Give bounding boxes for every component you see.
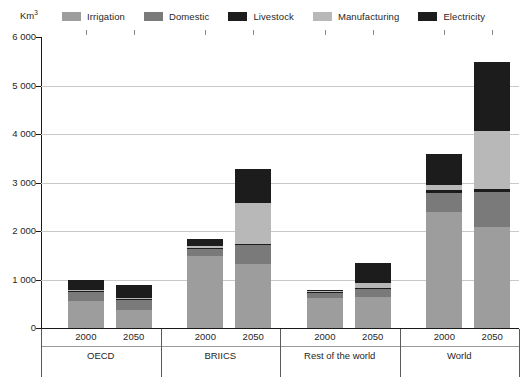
bar-segment-irrigation bbox=[68, 301, 104, 328]
bar-segment-manufacturing bbox=[307, 291, 343, 292]
legend-swatch-icon bbox=[313, 12, 332, 21]
bar-segment-livestock bbox=[355, 288, 391, 289]
bar-segment-electricity bbox=[307, 290, 343, 291]
bar-segment-irrigation bbox=[307, 298, 343, 328]
legend-item-irrigation: Irrigation bbox=[62, 11, 125, 22]
y-tick-mark bbox=[36, 231, 41, 232]
bar-segment-livestock bbox=[235, 244, 271, 245]
y-tick-label: 2 000 bbox=[0, 225, 36, 236]
x-year-label: 2050 bbox=[228, 331, 278, 342]
x-year-label: 2050 bbox=[467, 331, 517, 342]
bar-segment-manufacturing bbox=[235, 203, 271, 244]
bar-segment-irrigation bbox=[187, 256, 223, 328]
bar-segment-domestic bbox=[187, 249, 223, 255]
bar-segment-livestock bbox=[307, 292, 343, 293]
y-tick-mark bbox=[36, 86, 41, 87]
bar-world-2000 bbox=[426, 154, 462, 328]
x-year-label: 2000 bbox=[419, 331, 469, 342]
bar-oecd-2000 bbox=[68, 280, 104, 328]
gridline-4000 bbox=[41, 134, 519, 135]
x-year-label: 2050 bbox=[348, 331, 398, 342]
legend-item-livestock: Livestock bbox=[228, 11, 294, 22]
y-tick-mark bbox=[36, 134, 41, 135]
bar-segment-electricity bbox=[116, 285, 152, 298]
top-tick-mark bbox=[86, 30, 87, 35]
top-tick-mark bbox=[492, 30, 493, 35]
legend-item-electricity: Electricity bbox=[418, 11, 485, 22]
bar-segment-manufacturing bbox=[355, 283, 391, 288]
x-group-label: OECD bbox=[41, 350, 161, 361]
bar-segment-electricity bbox=[474, 62, 510, 131]
bar-briics-2000 bbox=[187, 239, 223, 328]
chart-legend: IrrigationDomesticLivestockManufacturing… bbox=[62, 9, 504, 23]
bar-segment-livestock bbox=[116, 299, 152, 300]
bar-segment-irrigation bbox=[235, 264, 271, 328]
x-year-label: 2050 bbox=[109, 331, 159, 342]
top-tick-mark bbox=[253, 30, 254, 35]
legend-label: Manufacturing bbox=[338, 11, 400, 22]
bar-segment-livestock bbox=[474, 189, 510, 192]
bar-segment-irrigation bbox=[116, 310, 152, 328]
legend-swatch-icon bbox=[144, 12, 163, 21]
bar-segment-livestock bbox=[68, 291, 104, 292]
bar-segment-domestic bbox=[307, 293, 343, 298]
x-year-label: 2000 bbox=[300, 331, 350, 342]
bar-rest-of-the-world-2000 bbox=[307, 290, 343, 328]
bar-segment-manufacturing bbox=[68, 290, 104, 291]
bar-segment-domestic bbox=[355, 289, 391, 297]
top-tick-mark bbox=[134, 30, 135, 35]
y-axis-unit-label: Km3 bbox=[20, 9, 38, 21]
y-tick-label: 3 000 bbox=[0, 177, 36, 188]
top-tick-mark bbox=[373, 30, 374, 35]
x-year-label: 2000 bbox=[180, 331, 230, 342]
bar-segment-irrigation bbox=[426, 212, 462, 328]
water-demand-stacked-bar-chart: Km3 IrrigationDomesticLivestockManufactu… bbox=[0, 0, 525, 379]
legend-label: Livestock bbox=[253, 11, 294, 22]
bar-segment-irrigation bbox=[474, 227, 510, 328]
legend-swatch-icon bbox=[62, 12, 81, 21]
gridline-5000 bbox=[41, 86, 519, 87]
legend-item-manufacturing: Manufacturing bbox=[313, 11, 400, 22]
x-year-label: 2000 bbox=[61, 331, 111, 342]
plot-area bbox=[41, 37, 519, 328]
y-tick-label: 6 000 bbox=[0, 31, 36, 42]
y-tick-mark bbox=[36, 37, 41, 38]
bar-segment-livestock bbox=[187, 248, 223, 249]
y-tick-label: 4 000 bbox=[0, 128, 36, 139]
top-tick-mark bbox=[325, 30, 326, 35]
legend-swatch-icon bbox=[228, 12, 247, 21]
bar-segment-electricity bbox=[426, 154, 462, 185]
legend-label: Irrigation bbox=[87, 11, 125, 22]
y-tick-label: 1 000 bbox=[0, 274, 36, 285]
legend-label: Domestic bbox=[169, 11, 209, 22]
y-tick-mark bbox=[36, 183, 41, 184]
bar-segment-electricity bbox=[355, 263, 391, 283]
legend-swatch-icon bbox=[418, 12, 437, 21]
legend-label: Electricity bbox=[443, 11, 485, 22]
x-group-label: BRIICS bbox=[160, 350, 280, 361]
bar-segment-manufacturing bbox=[187, 246, 223, 249]
top-tick-mark bbox=[444, 30, 445, 35]
bar-segment-manufacturing bbox=[426, 185, 462, 190]
bar-segment-electricity bbox=[235, 169, 271, 203]
bar-segment-domestic bbox=[474, 192, 510, 227]
group-separator bbox=[41, 329, 42, 377]
y-tick-label: 0 bbox=[0, 322, 36, 333]
bar-rest-of-the-world-2050 bbox=[355, 263, 391, 328]
legend-item-domestic: Domestic bbox=[144, 11, 209, 22]
bar-segment-domestic bbox=[68, 292, 104, 301]
bar-segment-domestic bbox=[426, 193, 462, 212]
bar-world-2050 bbox=[474, 62, 510, 328]
x-group-label: Rest of the world bbox=[280, 350, 400, 361]
bar-segment-manufacturing bbox=[474, 131, 510, 189]
group-separator bbox=[519, 329, 520, 377]
bar-segment-irrigation bbox=[355, 297, 391, 328]
bar-segment-electricity bbox=[187, 239, 223, 245]
bar-segment-livestock bbox=[426, 190, 462, 192]
x-group-label: World bbox=[399, 350, 519, 361]
bar-segment-domestic bbox=[235, 245, 271, 264]
bar-segment-manufacturing bbox=[116, 298, 152, 299]
bar-segment-electricity bbox=[68, 280, 104, 289]
bar-segment-domestic bbox=[116, 300, 152, 310]
y-tick-label: 5 000 bbox=[0, 80, 36, 91]
